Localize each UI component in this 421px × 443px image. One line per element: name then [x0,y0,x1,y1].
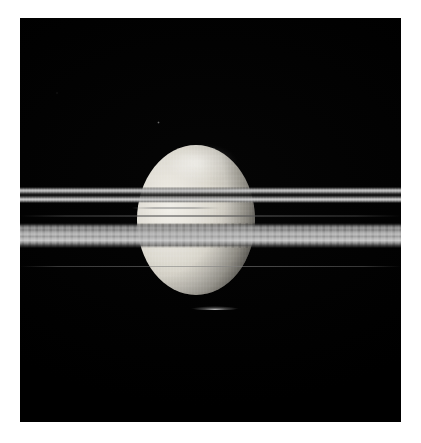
page-root [0,0,421,443]
ring-gap-line [20,215,401,217]
ring-lower-texture [20,223,401,248]
star-speck-secondary-icon [56,92,58,94]
photo-frame [20,18,401,422]
star-speck-icon [157,121,160,124]
ring-upper-texture [20,187,401,203]
saturn-polar-cap-highlight [170,149,236,179]
ring-shadow-streak [132,207,220,209]
ring-faint-outer-streak [20,266,401,267]
limb-arc [189,306,241,310]
